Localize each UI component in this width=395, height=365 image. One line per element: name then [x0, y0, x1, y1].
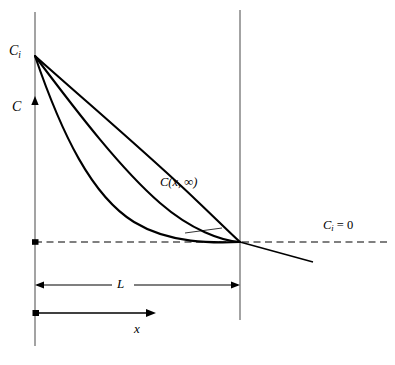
tangent-extension-line	[240, 242, 313, 262]
concentration-curve-upper	[35, 56, 240, 242]
label-initial-concentration-symbol: C	[9, 43, 18, 58]
label-c-axis: C	[12, 100, 21, 114]
label-equilibrium-value: = 0	[334, 218, 354, 232]
label-x-axis: x	[134, 322, 140, 335]
concentration-profile-figure: Ci C C(x, ∞) Ci = 0 L x	[0, 0, 395, 365]
label-initial-concentration: Ci	[9, 44, 21, 60]
length-arrow-right-icon	[231, 281, 240, 288]
label-length: L	[117, 277, 124, 290]
x-axis-origin-marker	[33, 310, 40, 316]
equilibrium-origin-marker	[32, 239, 39, 245]
x-axis-arrow-icon	[146, 309, 156, 317]
label-equilibrium-concentration: Ci = 0	[323, 219, 353, 233]
c-axis-arrow-icon	[31, 96, 38, 105]
label-initial-concentration-subscript: i	[18, 50, 21, 60]
length-arrow-left-icon	[35, 281, 44, 288]
label-curve-family: C(x, ∞)	[160, 176, 197, 189]
figure-canvas	[0, 0, 395, 365]
